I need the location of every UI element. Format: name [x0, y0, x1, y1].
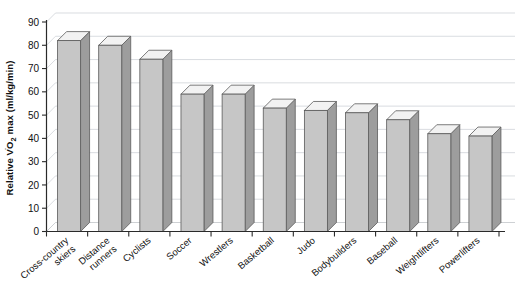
bar-column: [140, 50, 172, 231]
bar-column: [99, 36, 131, 231]
y-tick-label: 30: [28, 156, 40, 167]
y-tick-label: 10: [28, 203, 40, 214]
bar-column: [181, 85, 213, 231]
y-tick-label: 40: [28, 133, 40, 144]
bar-column: [469, 127, 501, 231]
y-tick-label: 0: [33, 226, 39, 237]
y-tick-label: 50: [28, 110, 40, 121]
y-tick-label: 70: [28, 63, 40, 74]
bar-column: [304, 101, 336, 231]
y-tick-label: 20: [28, 180, 40, 191]
bar-column: [58, 32, 90, 232]
bar-column: [222, 85, 254, 231]
y-tick-label: 60: [28, 86, 40, 97]
chart-container: 9080706050403020100 Cross-countryskiersD…: [0, 0, 526, 297]
bar-column: [428, 125, 460, 232]
y-tick-label: 80: [28, 40, 40, 51]
bar-column: [387, 111, 419, 232]
vo2max-bar-chart: 9080706050403020100 Cross-countryskiersD…: [0, 0, 526, 297]
bar-column: [263, 99, 295, 231]
bar-column: [346, 104, 378, 232]
y-tick-label: 90: [28, 17, 40, 28]
